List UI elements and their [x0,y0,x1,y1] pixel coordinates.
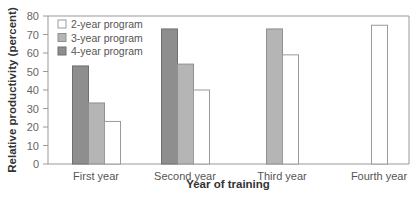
y-axis-label: Relative productivity (percent) [6,7,18,173]
bar-4-year-program [73,66,89,164]
x-tick-label: First year [73,170,119,182]
x-tick-label: Fourth year [351,170,408,182]
bar-3-year-program [89,103,105,164]
bar-3-year-program [267,29,283,164]
bar-chart: 01020304050607080 First yearSecond yearT… [0,0,417,199]
legend-swatch [58,20,66,28]
bar-3-year-program [178,64,194,164]
y-tick-label: 40 [27,84,39,96]
legend: 2-year program3-year program4-year progr… [58,18,143,57]
y-axis: 01020304050607080 [27,10,48,170]
bar-2-year-program [194,90,210,164]
legend-label: 3-year program [71,32,143,44]
y-tick-label: 20 [27,121,39,133]
y-tick-label: 30 [27,103,39,115]
legend-swatch [58,47,66,55]
y-tick-label: 10 [27,140,39,152]
x-axis-label: Year of training [186,178,270,190]
y-tick-label: 50 [27,66,39,78]
bar-4-year-program [162,29,178,164]
bar-2-year-program [372,25,388,164]
bar-2-year-program [105,121,121,164]
legend-label: 4-year program [71,45,143,57]
bar-2-year-program [283,55,299,164]
y-tick-label: 80 [27,10,39,22]
y-tick-label: 70 [27,29,39,41]
legend-label: 2-year program [71,18,143,30]
y-tick-label: 60 [27,47,39,59]
y-tick-label: 0 [33,158,39,170]
chart-canvas: 01020304050607080 First yearSecond yearT… [0,0,417,199]
legend-swatch [58,34,66,42]
